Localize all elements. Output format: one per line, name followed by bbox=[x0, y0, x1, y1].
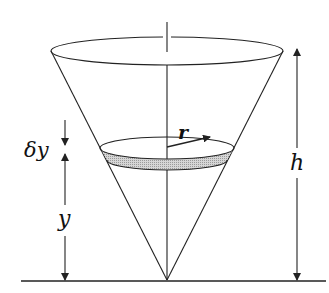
radius-label: r bbox=[178, 121, 190, 143]
h-label: h bbox=[290, 150, 304, 175]
y-label: y bbox=[57, 206, 71, 231]
radius-arrow bbox=[167, 137, 210, 147]
delta-y-label: δy bbox=[24, 138, 50, 162]
cone-diagram: r δy y h bbox=[0, 0, 329, 293]
